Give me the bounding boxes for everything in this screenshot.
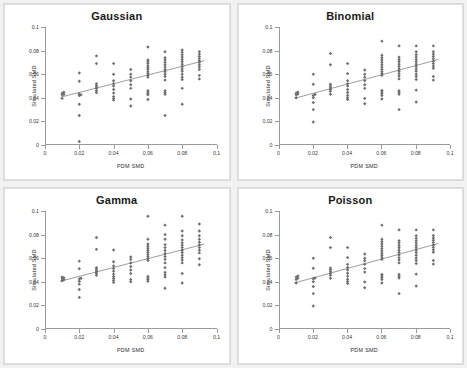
x-tick-label: 0.1 bbox=[213, 150, 220, 156]
data-point bbox=[129, 75, 132, 78]
data-point bbox=[146, 238, 149, 241]
data-point bbox=[431, 44, 434, 47]
y-tick bbox=[275, 211, 279, 212]
data-point bbox=[95, 82, 98, 85]
data-point bbox=[414, 53, 417, 56]
y-tick bbox=[41, 282, 45, 283]
data-point bbox=[95, 62, 98, 65]
data-point bbox=[78, 259, 81, 262]
data-point bbox=[112, 260, 115, 263]
data-point bbox=[181, 103, 184, 106]
data-point bbox=[328, 83, 331, 86]
data-point bbox=[129, 268, 132, 271]
data-point bbox=[163, 287, 166, 290]
data-point bbox=[397, 108, 400, 111]
data-point bbox=[431, 234, 434, 237]
data-point bbox=[328, 246, 331, 249]
data-point bbox=[163, 50, 166, 53]
x-tick-label: 0.06 bbox=[376, 150, 386, 156]
x-tick-label: 0.1 bbox=[446, 150, 453, 156]
panel-gamma: Gamma PDM SMD Simulated SMD 00.020.040.0… bbox=[3, 187, 231, 365]
data-point bbox=[129, 278, 132, 281]
data-point bbox=[78, 267, 81, 270]
y-tick bbox=[275, 98, 279, 99]
x-tick-label: 0.08 bbox=[411, 334, 421, 340]
series-layer bbox=[279, 27, 451, 145]
data-point bbox=[363, 68, 366, 71]
data-point bbox=[146, 215, 149, 218]
data-point bbox=[78, 282, 81, 285]
data-point bbox=[112, 248, 115, 251]
data-point bbox=[328, 63, 331, 66]
data-point bbox=[112, 88, 115, 91]
data-point bbox=[181, 87, 184, 90]
data-point bbox=[328, 93, 331, 96]
data-point bbox=[414, 284, 417, 287]
y-tick-label: 0.04 bbox=[262, 279, 272, 285]
data-point bbox=[328, 52, 331, 55]
data-point bbox=[78, 71, 81, 74]
series-layer bbox=[45, 27, 217, 145]
data-point bbox=[311, 108, 314, 111]
data-point bbox=[414, 44, 417, 47]
y-tick-label: 0.04 bbox=[29, 279, 39, 285]
data-point bbox=[129, 73, 132, 76]
data-point bbox=[311, 280, 314, 283]
x-tick-label: 0.1 bbox=[446, 334, 453, 340]
data-point bbox=[328, 266, 331, 269]
y-tick-label: 0.1 bbox=[32, 24, 39, 30]
data-point bbox=[397, 239, 400, 242]
data-point bbox=[163, 238, 166, 241]
data-point bbox=[311, 257, 314, 260]
y-tick bbox=[41, 51, 45, 52]
data-point bbox=[345, 272, 348, 275]
x-tick bbox=[279, 145, 280, 149]
data-point bbox=[414, 228, 417, 231]
data-point bbox=[345, 263, 348, 266]
data-point bbox=[345, 278, 348, 281]
x-tick bbox=[182, 145, 183, 149]
x-tick bbox=[416, 145, 417, 149]
data-point bbox=[163, 255, 166, 258]
y-tick-label: 0 bbox=[270, 326, 273, 332]
data-point bbox=[181, 238, 184, 241]
x-tick-label: 0 bbox=[44, 150, 47, 156]
data-point bbox=[198, 241, 201, 244]
data-point bbox=[345, 62, 348, 65]
x-tick bbox=[347, 329, 348, 333]
data-point bbox=[163, 89, 166, 92]
data-point bbox=[198, 74, 201, 77]
y-tick-label: 0.08 bbox=[29, 232, 39, 238]
x-tick bbox=[148, 329, 149, 333]
data-point bbox=[397, 55, 400, 58]
data-point bbox=[163, 56, 166, 59]
data-point bbox=[112, 272, 115, 275]
x-tick bbox=[313, 145, 314, 149]
data-point bbox=[363, 75, 366, 78]
data-point bbox=[181, 75, 184, 78]
y-tick bbox=[275, 121, 279, 122]
data-point bbox=[363, 267, 366, 270]
data-point bbox=[112, 73, 115, 76]
x-tick bbox=[416, 329, 417, 333]
x-tick bbox=[148, 145, 149, 149]
data-point bbox=[163, 258, 166, 261]
data-point bbox=[380, 97, 383, 100]
y-tick-label: 0.02 bbox=[29, 118, 39, 124]
x-tick-label: 0 bbox=[277, 150, 280, 156]
data-point bbox=[311, 304, 314, 307]
x-tick bbox=[217, 329, 218, 333]
data-point bbox=[129, 68, 132, 71]
x-tick-label: 0.08 bbox=[177, 334, 187, 340]
data-point bbox=[380, 54, 383, 57]
data-point bbox=[198, 229, 201, 232]
x-tick bbox=[79, 145, 80, 149]
data-point bbox=[112, 95, 115, 98]
y-tick bbox=[41, 305, 45, 306]
plot-area: PDM SMD Simulated SMD 00.020.040.060.080… bbox=[279, 27, 451, 145]
panel-inner: Gamma PDM SMD Simulated SMD 00.020.040.0… bbox=[4, 188, 230, 364]
y-tick-label: 0.06 bbox=[262, 71, 272, 77]
data-point bbox=[380, 238, 383, 241]
data-point bbox=[198, 238, 201, 241]
x-tick bbox=[79, 329, 80, 333]
